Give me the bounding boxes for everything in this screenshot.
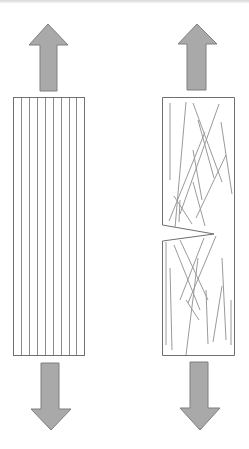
tensile-fiber-diagram [0,0,249,449]
tension-arrow-up-icon [29,24,68,91]
tension-arrow-down-icon [180,362,220,430]
notched-specimen-outline [163,98,235,356]
tension-arrow-down-icon [31,363,71,430]
specimen-outline [14,98,85,356]
aligned-fiber-specimen [14,24,85,430]
random-fiber-specimen [163,24,235,430]
tension-arrow-up-icon [178,24,217,90]
